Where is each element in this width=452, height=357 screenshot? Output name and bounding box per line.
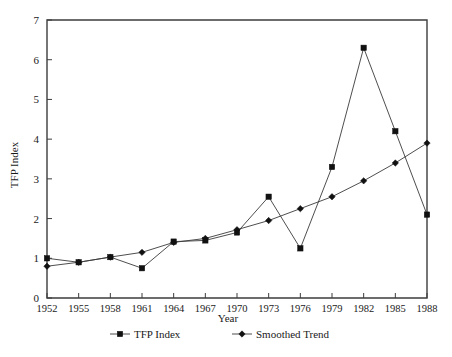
y-axis-title: TFP Index bbox=[8, 141, 20, 188]
x-axis-title: Year bbox=[218, 312, 239, 324]
y-tick-label: 1 bbox=[34, 252, 40, 264]
x-tick-label: 1973 bbox=[258, 303, 279, 314]
y-tick-label: 3 bbox=[34, 173, 40, 185]
x-tick-label: 1979 bbox=[322, 303, 343, 314]
data-point-marker bbox=[361, 45, 366, 50]
data-point-marker bbox=[44, 256, 49, 261]
x-tick-label: 1976 bbox=[290, 303, 311, 314]
chart-canvas: 01234567 1952195519581961196419671970197… bbox=[0, 0, 452, 357]
x-tick-label: 1961 bbox=[132, 303, 153, 314]
data-point-marker bbox=[393, 129, 398, 134]
x-tick-label: 1988 bbox=[417, 303, 438, 314]
legend-label: TFP Index bbox=[134, 328, 181, 340]
data-point-marker bbox=[139, 266, 144, 271]
x-tick-label: 1964 bbox=[163, 303, 185, 314]
y-tick-label: 7 bbox=[34, 14, 40, 26]
data-point-marker bbox=[298, 246, 303, 251]
x-tick-label: 1967 bbox=[195, 303, 216, 314]
legend-marker-square bbox=[117, 331, 122, 336]
x-tick-label: 1955 bbox=[68, 303, 89, 314]
x-tick-label: 1985 bbox=[385, 303, 406, 314]
y-tick-label: 6 bbox=[34, 54, 40, 66]
y-tick-label: 5 bbox=[34, 93, 40, 105]
tfp-index-chart: 01234567 1952195519581961196419671970197… bbox=[0, 0, 452, 357]
x-tick-label: 1958 bbox=[100, 303, 121, 314]
x-tick-label: 1952 bbox=[37, 303, 58, 314]
y-tick-label: 2 bbox=[34, 213, 40, 225]
data-point-marker bbox=[424, 212, 429, 217]
data-point-marker bbox=[266, 194, 271, 199]
legend-label: Smoothed Trend bbox=[256, 328, 330, 340]
y-tick-label: 4 bbox=[34, 133, 40, 145]
x-tick-label: 1982 bbox=[353, 303, 374, 314]
data-point-marker bbox=[329, 164, 334, 169]
